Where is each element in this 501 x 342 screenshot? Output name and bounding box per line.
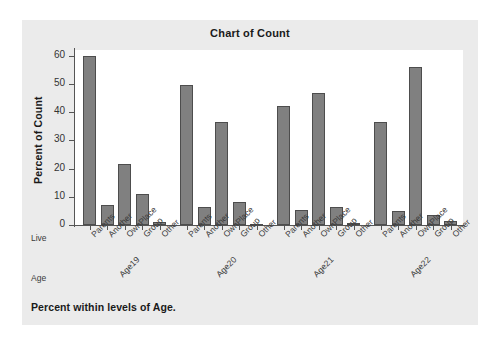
y-tick-label: 60 bbox=[54, 49, 65, 60]
bar bbox=[409, 67, 422, 225]
group-label: Age20 bbox=[214, 255, 238, 279]
y-axis-title: Percent of Count bbox=[30, 50, 46, 230]
y-tick-label: 50 bbox=[54, 77, 65, 88]
bar bbox=[312, 93, 325, 225]
y-tick-label: 20 bbox=[54, 162, 65, 173]
group-label: Age19 bbox=[117, 255, 141, 279]
group-label: Age22 bbox=[408, 255, 432, 279]
bar bbox=[83, 56, 96, 225]
chart-footnote: Percent within levels of Age. bbox=[31, 301, 176, 313]
y-tick-mark bbox=[69, 140, 74, 141]
bar bbox=[215, 122, 228, 225]
y-tick-mark bbox=[69, 197, 74, 198]
row-header-age: Age bbox=[31, 273, 46, 283]
bar bbox=[374, 122, 387, 225]
y-tick-mark bbox=[69, 225, 74, 226]
group-label: Age21 bbox=[311, 255, 335, 279]
chart-title: Chart of Count bbox=[22, 27, 478, 39]
row-header-live: Live bbox=[31, 233, 47, 243]
y-tick-mark bbox=[69, 112, 74, 113]
y-tick-mark bbox=[69, 56, 74, 57]
bar bbox=[180, 85, 193, 225]
chart-panel: Chart of Count Percent of Count 01020304… bbox=[22, 20, 478, 325]
y-axis-line bbox=[74, 48, 75, 227]
y-tick-label: 10 bbox=[54, 190, 65, 201]
bar bbox=[277, 106, 290, 225]
plot-area bbox=[75, 50, 463, 225]
y-tick-label: 30 bbox=[54, 133, 65, 144]
y-tick-mark bbox=[69, 84, 74, 85]
y-tick-label: 40 bbox=[54, 105, 65, 116]
y-tick-mark bbox=[69, 169, 74, 170]
y-tick-label: 0 bbox=[59, 218, 65, 229]
